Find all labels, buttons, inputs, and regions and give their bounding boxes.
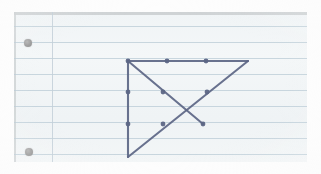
point-left-edge-point-2 bbox=[126, 122, 131, 127]
point-left-edge-point-1 bbox=[126, 90, 131, 95]
segment-hypotenuse-descending bbox=[128, 61, 203, 124]
point-vertex-top-left bbox=[126, 59, 131, 64]
point-top-edge-point-1 bbox=[165, 59, 170, 64]
ink-drawing-layer bbox=[0, 0, 321, 174]
point-descending-point-1 bbox=[161, 90, 166, 95]
point-top-edge-point-2 bbox=[204, 59, 209, 64]
geometric-figure bbox=[0, 0, 321, 174]
point-ascending-point-2 bbox=[205, 90, 210, 95]
scanned-page: Right triangle with crossing diagonals bbox=[0, 0, 321, 174]
segment-group bbox=[128, 61, 248, 157]
point-descending-endpoint bbox=[201, 122, 206, 127]
point-ascending-point-1 bbox=[161, 122, 166, 127]
